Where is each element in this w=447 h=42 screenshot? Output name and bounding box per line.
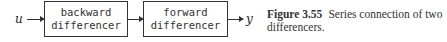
input-label-u: u [15,13,23,25]
block-label-line1: forward [163,6,207,19]
figure-caption: Figure 3.55Series connection of two diff… [267,8,447,34]
backward-differencer-block: backward differencer [44,1,128,37]
output-arrow [228,19,243,20]
block-label-line2: differencer [51,19,121,32]
output-label-y: y [246,13,253,25]
connecting-arrow [128,19,143,20]
forward-differencer-block: forward differencer [143,1,228,37]
block-diagram: u backward differencer forward differenc… [0,0,260,42]
block-label-line1: backward [61,6,112,19]
figure-number: Figure 3.55 [267,8,322,20]
block-label-line2: differencer [151,19,221,32]
input-arrow [27,19,44,20]
